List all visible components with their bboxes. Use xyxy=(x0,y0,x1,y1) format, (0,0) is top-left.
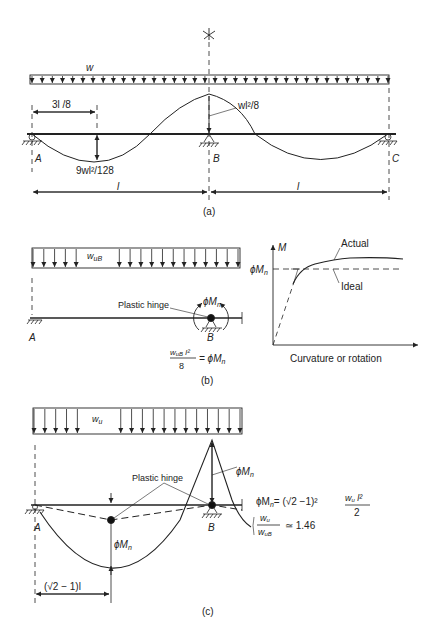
support-A-label: A xyxy=(34,153,42,164)
plastic-hinge-icon xyxy=(208,315,215,322)
distributed-load-wu xyxy=(33,408,242,434)
graph-ideal-label: Ideal xyxy=(341,281,363,292)
panel-c-labels: wu Plastic hinge ϕMn ϕMn A B (√2 − 1)l ϕ… xyxy=(33,414,363,617)
caption-a: (a) xyxy=(203,206,215,217)
panel-b-labels: wuB Plastic hinge ϕMn A B wuB l² 8 = ϕMn… xyxy=(28,238,382,386)
load-arrows xyxy=(33,249,238,267)
panel-a-labels: w 3l /8 wl²/8 9wl²/128 A B C l l (a) xyxy=(34,62,400,217)
moment-top-subscript: n xyxy=(250,471,254,478)
plastic-hinge-label: Plastic hinge xyxy=(118,300,169,310)
load-arrows xyxy=(32,76,388,83)
eq1-numerator: wu l² xyxy=(345,493,363,503)
span-left-label: l xyxy=(117,181,120,192)
span-right-label: l xyxy=(297,181,300,192)
load-label-wu: wu xyxy=(92,414,103,425)
eq2-denominator: wuB xyxy=(258,527,272,537)
level-subscript: n xyxy=(264,269,268,276)
eq1-lhs-symbol: ϕM xyxy=(256,496,270,507)
moment-label: ϕMn xyxy=(203,296,221,308)
eq2-den-subscript: uB xyxy=(265,531,272,537)
moment-top-label: ϕMn xyxy=(236,466,254,478)
plastic-hinge-label: Plastic hinge xyxy=(132,473,183,483)
pos-moment-label: 9wl²/128 xyxy=(76,165,114,176)
load-subscript: u xyxy=(99,418,103,425)
eq1-mid: = (√2 −1)² xyxy=(274,496,319,507)
eq-num-tail: l² xyxy=(183,348,190,357)
eq2-numerator: wu xyxy=(260,513,271,523)
graph-level-label: ϕMn xyxy=(250,264,268,276)
equation-denominator: 8 xyxy=(179,361,184,371)
equation-rhs: = ϕMn xyxy=(199,353,226,365)
dimension-label: (√2 − 1)l xyxy=(44,581,81,592)
caption-b: (b) xyxy=(201,375,213,386)
distributed-load-wuB xyxy=(32,248,240,268)
support-A-label: A xyxy=(33,522,41,533)
load-arrows xyxy=(34,409,240,433)
eq-rhs-subscript: n xyxy=(222,358,226,365)
level-symbol: ϕM xyxy=(250,264,265,275)
load-label-w: w xyxy=(86,62,94,73)
dim-3l-8: 3l /8 xyxy=(52,99,71,110)
graph-x-axis-label: Curvature or rotation xyxy=(290,353,382,364)
moment-subscript: n xyxy=(217,301,221,308)
neg-moment-label: wl²/8 xyxy=(237,100,260,111)
support-A-icon xyxy=(27,320,42,324)
figure-canvas: w 3l /8 wl²/8 9wl²/128 A B C l l (a) xyxy=(0,0,437,633)
moment-symbol: ϕM xyxy=(203,296,218,307)
panel-c xyxy=(25,408,370,603)
moment-mid-subscript: n xyxy=(128,544,132,551)
load-subscript: uB xyxy=(94,255,103,262)
moment-top-symbol: ϕM xyxy=(236,466,251,477)
equation-numerator: wuB l² xyxy=(170,348,190,357)
distributed-load-w xyxy=(30,75,389,84)
plastic-hinge-midspan-icon xyxy=(108,517,115,524)
eq-num-subscript: uB xyxy=(176,351,183,357)
eq2-num-subscript: u xyxy=(267,517,271,523)
eq2-rhs: ≃ 1.46 xyxy=(285,520,316,531)
support-B-label: B xyxy=(208,522,215,533)
symmetry-icon xyxy=(203,28,215,40)
eq1-num-tail: l² xyxy=(355,493,364,503)
caption-c: (c) xyxy=(202,606,214,617)
support-A-label: A xyxy=(28,332,36,343)
eq1-lhs: ϕMn= (√2 −1)² xyxy=(256,496,318,508)
eq1-denominator: 2 xyxy=(354,507,360,518)
graph-y-axis-label: M xyxy=(278,242,287,253)
moment-curvature-graph xyxy=(273,245,418,345)
support-B-label: B xyxy=(207,332,214,343)
moment-mid-symbol: ϕM xyxy=(114,539,129,550)
support-B-label: B xyxy=(213,153,220,164)
support-C-label: C xyxy=(392,153,400,164)
graph-actual-label: Actual xyxy=(341,238,369,249)
eq-rhs-text: = ϕM xyxy=(199,353,222,364)
panel-b xyxy=(27,245,418,358)
moment-mid-label: ϕMn xyxy=(114,539,132,551)
load-label-wuB: wuB xyxy=(87,251,102,262)
